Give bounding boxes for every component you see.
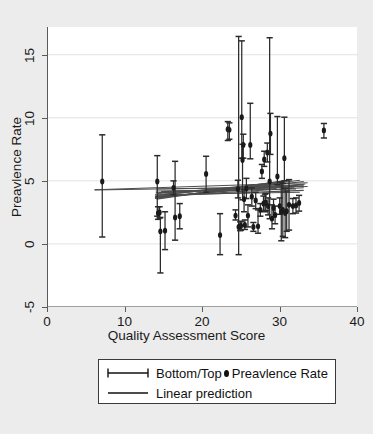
x-tick-label-0: 0	[43, 314, 51, 329]
error-bars	[99, 36, 327, 272]
linear-prediction-lines	[95, 180, 308, 200]
y-tick-label-15: 15	[22, 42, 37, 68]
legend-label-linear-prediction: Linear prediction	[156, 387, 252, 400]
y-tick-mark	[42, 244, 47, 245]
gridlines	[48, 55, 358, 307]
x-tick-label-10: 10	[117, 314, 132, 329]
y-tick-label-5: 5	[22, 168, 37, 194]
dot-marker-icon	[224, 370, 229, 377]
x-tick-mark	[202, 307, 203, 312]
y-tick-mark	[42, 118, 47, 119]
legend-row-markers: Bottom/Top Preavlence Rate	[105, 363, 329, 383]
x-tick-mark	[47, 307, 48, 312]
chart-legend: Bottom/Top Preavlence Rate Linear predic…	[98, 359, 336, 404]
legend-row-prediction: Linear prediction	[105, 383, 329, 403]
y-tick-label--5: -5	[22, 294, 37, 320]
errorbar-key-icon	[105, 367, 151, 379]
x-tick-label-30: 30	[272, 314, 287, 329]
chart-figure: -5051015 010203040 Quality Assessment Sc…	[0, 0, 373, 434]
y-tick-mark	[42, 55, 47, 56]
x-axis-title: Quality Assessment Score	[0, 328, 373, 343]
y-tick-mark	[42, 181, 47, 182]
x-tick-mark	[125, 307, 126, 312]
y-axis-title-text: Preavlence Rate	[9, 117, 24, 217]
x-tick-mark	[280, 307, 281, 312]
scatter-plot-canvas	[48, 27, 358, 307]
x-tick-label-20: 20	[194, 314, 209, 329]
y-tick-label-10: 10	[22, 105, 37, 131]
x-tick-mark	[357, 307, 358, 312]
data-point-markers	[100, 114, 326, 238]
y-tick-label-0: 0	[22, 231, 37, 257]
x-tick-label-40: 40	[349, 314, 364, 329]
legend-label-prevalence-rate: Preavlence Rate	[232, 367, 328, 380]
plot-area	[47, 27, 357, 307]
line-key-icon	[105, 387, 151, 399]
legend-label-bottom-top: Bottom/Top	[156, 367, 222, 380]
